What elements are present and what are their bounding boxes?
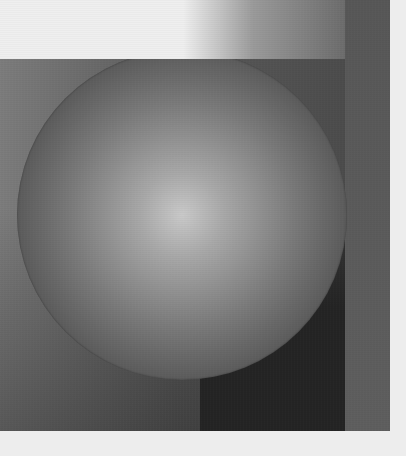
sphere-clip-region (0, 59, 390, 431)
shaded-sphere (17, 59, 347, 380)
top-gradient-band (0, 0, 390, 59)
abstract-sphere-graphic (0, 0, 406, 456)
